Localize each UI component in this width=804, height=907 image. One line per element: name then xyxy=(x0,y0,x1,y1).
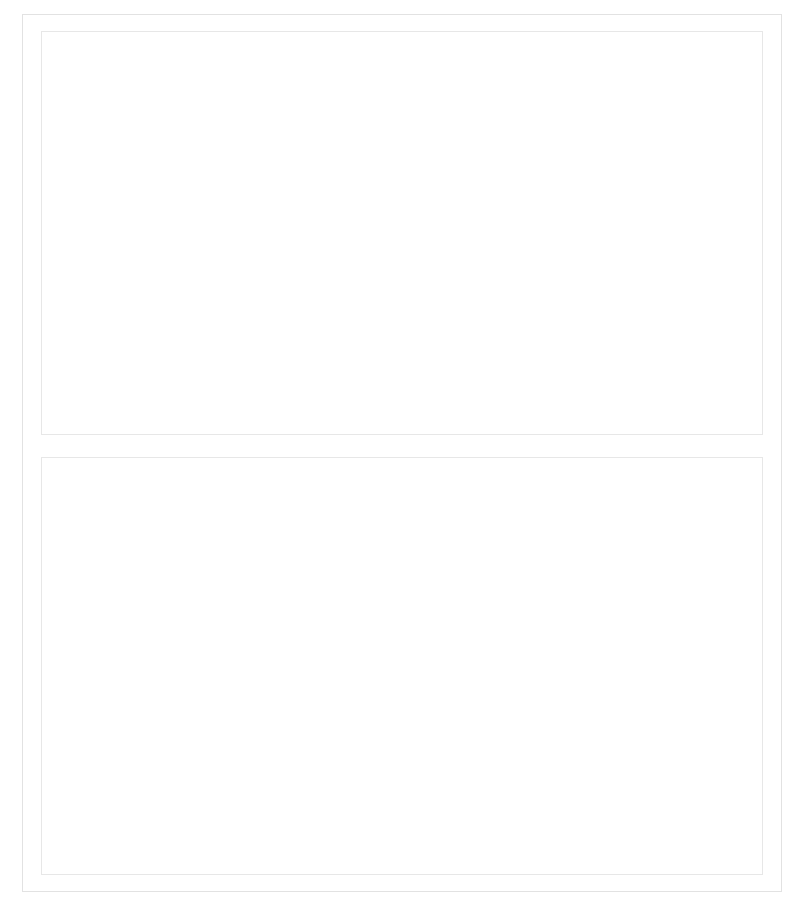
chart-panel-top xyxy=(41,31,763,435)
scatter-plot-top xyxy=(42,32,762,434)
figure-container xyxy=(22,14,782,892)
chart-panel-bottom xyxy=(41,457,763,875)
scatter-plot-bottom xyxy=(42,458,762,874)
